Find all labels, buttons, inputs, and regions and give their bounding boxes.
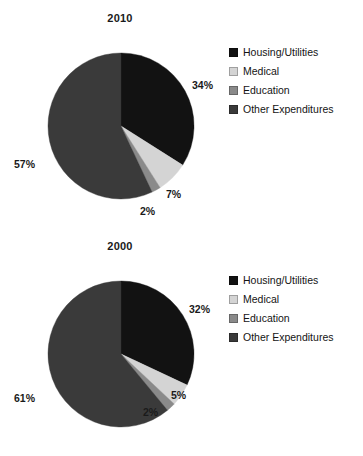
pie-svg-2000 — [46, 279, 196, 429]
legend-label-housing: Housing/Utilities — [243, 46, 318, 58]
value-label-other: 57% — [14, 158, 35, 170]
legend-2010: Housing/Utilities Medical Education Othe… — [229, 43, 363, 119]
value-label-medical: 7% — [166, 188, 181, 200]
legend-label-housing: Housing/Utilities — [243, 274, 318, 286]
value-label-education: 2% — [140, 205, 155, 217]
value-label-housing: 32% — [189, 303, 210, 315]
legend-swatch-education-icon — [229, 314, 238, 323]
legend-item-education[interactable]: Education — [229, 81, 363, 99]
chart-title-2000: 2000 — [0, 240, 240, 252]
legend-label-medical: Medical — [243, 293, 279, 305]
legend-item-other[interactable]: Other Expenditures — [229, 100, 363, 118]
pie-chart-2010: 2010 34% 57% 7% 2% Housing/Utilities Med… — [0, 0, 363, 228]
pie-graphic-2010 — [46, 51, 196, 201]
legend-swatch-education-icon — [229, 86, 238, 95]
legend-swatch-medical-icon — [229, 295, 238, 304]
legend-item-other[interactable]: Other Expenditures — [229, 328, 363, 346]
legend-label-education: Education — [243, 84, 290, 96]
legend-item-education[interactable]: Education — [229, 309, 363, 327]
legend-swatch-other-icon — [229, 105, 238, 114]
legend-item-medical[interactable]: Medical — [229, 62, 363, 80]
legend-label-other: Other Expenditures — [243, 331, 333, 343]
pie-graphic-2000 — [46, 279, 196, 429]
legend-2000: Housing/Utilities Medical Education Othe… — [229, 271, 363, 347]
legend-swatch-housing-icon — [229, 276, 238, 285]
value-label-other: 61% — [14, 392, 35, 404]
legend-label-education: Education — [243, 312, 290, 324]
pie-slices-2010 — [48, 53, 194, 199]
pie-slices-2000 — [48, 281, 194, 427]
legend-item-medical[interactable]: Medical — [229, 290, 363, 308]
value-label-medical: 5% — [171, 389, 186, 401]
value-label-housing: 34% — [192, 79, 213, 91]
legend-label-other: Other Expenditures — [243, 103, 333, 115]
legend-swatch-housing-icon — [229, 48, 238, 57]
legend-swatch-other-icon — [229, 333, 238, 342]
legend-item-housing[interactable]: Housing/Utilities — [229, 271, 363, 289]
chart-title-2010: 2010 — [0, 12, 240, 24]
pie-chart-2000: 2000 32% 61% 5% 2% Housing/Utilities Med… — [0, 228, 363, 456]
legend-swatch-medical-icon — [229, 67, 238, 76]
value-label-education: 2% — [143, 406, 158, 418]
legend-label-medical: Medical — [243, 65, 279, 77]
pie-svg-2010 — [46, 51, 196, 201]
legend-item-housing[interactable]: Housing/Utilities — [229, 43, 363, 61]
